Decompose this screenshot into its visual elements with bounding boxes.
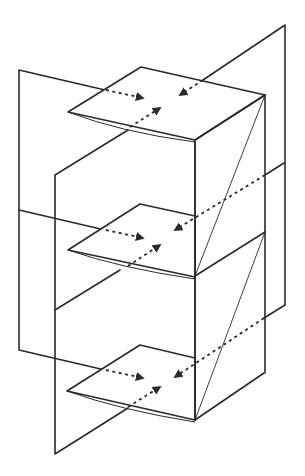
diagram-canvas	[0, 0, 305, 476]
right-back-plane	[203, 25, 285, 318]
bottom-square-sheet	[67, 345, 195, 420]
middle-square-sheet	[68, 204, 195, 277]
level-bottom	[67, 318, 264, 422]
stacked-planes-diagram	[0, 0, 305, 476]
level-middle	[68, 175, 265, 279]
front-plane	[55, 130, 128, 454]
level-top	[68, 67, 265, 142]
top-square-sheet	[68, 67, 265, 140]
cube-column	[195, 95, 265, 420]
